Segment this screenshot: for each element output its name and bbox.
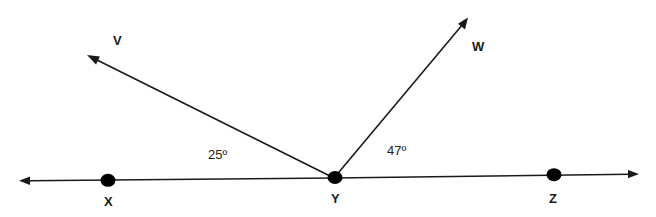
geometry-diagram: V W X Y Z 25º 47º	[0, 0, 656, 217]
angle-label-25: 25º	[208, 147, 227, 162]
point-y-dot	[328, 171, 343, 184]
label-x: X	[104, 194, 113, 209]
label-z: Z	[549, 191, 557, 206]
line-segment-right	[334, 174, 630, 178]
arrow-v-icon	[87, 55, 100, 65]
line-segment-left	[28, 178, 334, 181]
label-y: Y	[331, 191, 340, 206]
arrow-left-icon	[19, 177, 30, 185]
angle-label-47: 47º	[387, 143, 406, 158]
label-w: W	[472, 39, 485, 54]
point-x-dot	[101, 174, 116, 187]
label-v: V	[113, 33, 122, 48]
point-z-dot	[547, 168, 562, 181]
arrow-right-icon	[628, 170, 639, 178]
